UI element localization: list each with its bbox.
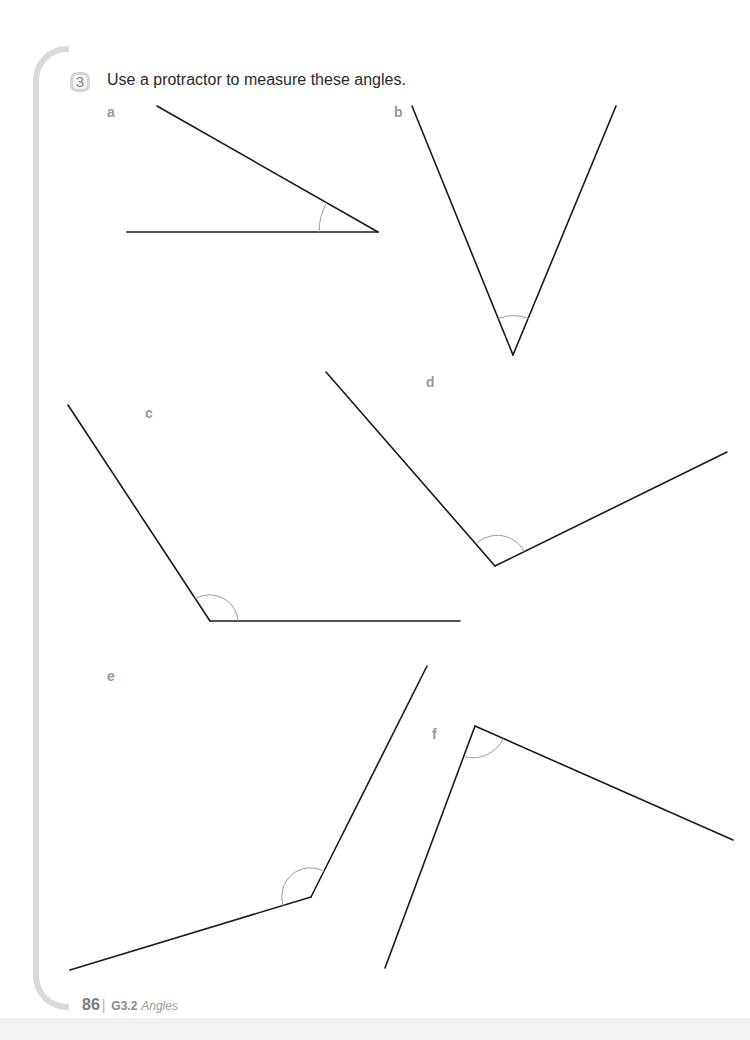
angle-c [68,405,460,621]
page-number: 86 [82,996,100,1013]
section-title: Angles [141,999,178,1013]
angle-diagrams [0,0,750,1040]
footer-separator: | [102,997,106,1013]
angle-f [385,726,733,968]
angle-d [326,372,727,566]
section-code: G3.2 [111,999,137,1013]
page-footer: 86| G3.2 Angles [82,996,178,1014]
angle-e [70,666,427,970]
angle-a [127,106,378,232]
angle-b [412,106,616,355]
